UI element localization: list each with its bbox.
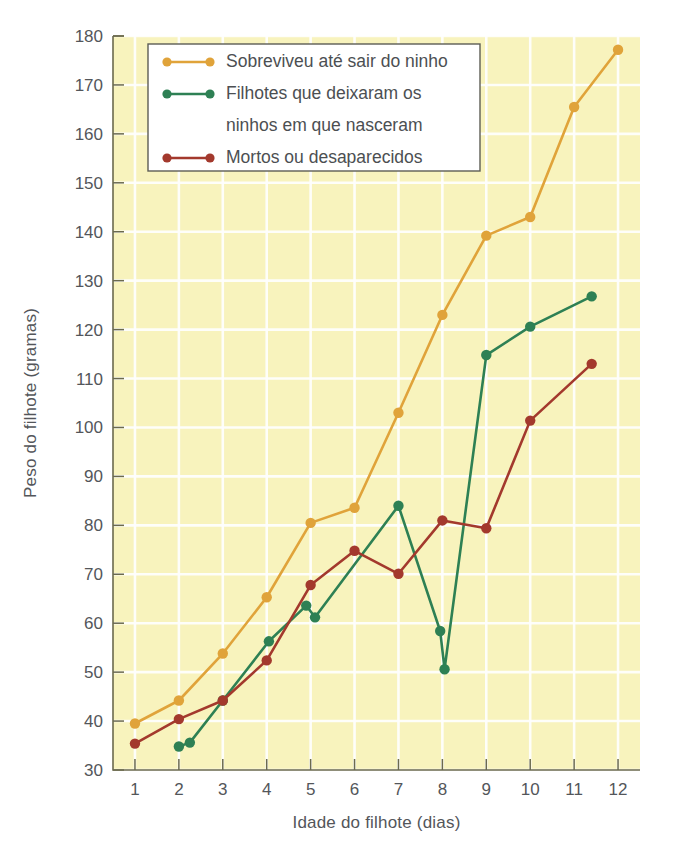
x-tick-label: 7 <box>394 780 403 799</box>
data-point <box>130 738 140 748</box>
x-tick-label: 11 <box>565 780 583 799</box>
x-tick-label: 3 <box>218 780 227 799</box>
legend-label: Mortos ou desaparecidos <box>226 147 423 167</box>
x-tick-label: 2 <box>174 780 183 799</box>
data-point <box>525 321 535 331</box>
legend-label: ninhos em que nasceram <box>226 115 423 135</box>
data-point <box>393 569 403 579</box>
x-tick-label: 1 <box>130 780 139 799</box>
data-point <box>218 695 228 705</box>
x-tick-label: 6 <box>350 780 359 799</box>
y-tick-label: 50 <box>84 663 103 682</box>
data-point <box>437 515 447 525</box>
y-tick-label: 30 <box>84 761 103 780</box>
data-point <box>301 600 311 610</box>
x-tick-label: 10 <box>521 780 540 799</box>
chart-figure: 3040506070809010011012013014015016017018… <box>0 0 677 863</box>
y-tick-label: 110 <box>76 370 103 389</box>
data-point <box>130 718 140 728</box>
data-point <box>525 212 535 222</box>
y-tick-label: 90 <box>84 467 103 486</box>
legend-label: Sobreviveu até sair do ninho <box>226 51 448 71</box>
y-tick-label: 40 <box>84 712 103 731</box>
x-tick-label: 9 <box>482 780 491 799</box>
data-point <box>349 546 359 556</box>
y-tick-label: 160 <box>75 125 103 144</box>
x-tick-label: 12 <box>609 780 628 799</box>
data-point <box>481 230 491 240</box>
data-point <box>218 648 228 658</box>
data-point <box>393 501 403 511</box>
y-tick-label: 60 <box>84 614 103 633</box>
data-point <box>481 523 491 533</box>
data-point <box>174 695 184 705</box>
legend-label: Filhotes que deixaram os <box>226 83 422 103</box>
data-point <box>264 636 274 646</box>
data-point <box>586 359 596 369</box>
x-tick-label: 5 <box>306 780 315 799</box>
data-point <box>310 612 320 622</box>
data-point <box>174 714 184 724</box>
y-axis-title: Peso do filhote (gramas) <box>21 308 40 498</box>
data-point <box>439 664 449 674</box>
line-chart: 3040506070809010011012013014015016017018… <box>0 0 677 863</box>
data-point <box>185 737 195 747</box>
x-tick-label: 8 <box>438 780 447 799</box>
y-tick-label: 100 <box>75 418 103 437</box>
data-point <box>174 741 184 751</box>
y-tick-label: 180 <box>75 27 103 46</box>
data-point <box>525 415 535 425</box>
data-point <box>481 350 491 360</box>
y-tick-label: 140 <box>75 223 103 242</box>
y-tick-label: 80 <box>84 516 103 535</box>
data-point <box>262 655 272 665</box>
y-tick-label: 150 <box>75 174 103 193</box>
y-tick-label: 70 <box>84 565 103 584</box>
x-axis-title: Idade do filhote (dias) <box>292 813 460 832</box>
data-point <box>586 291 596 301</box>
y-tick-label: 120 <box>75 321 103 340</box>
data-point <box>435 626 445 636</box>
data-point <box>349 503 359 513</box>
data-point <box>305 518 315 528</box>
data-point <box>569 102 579 112</box>
data-point <box>393 408 403 418</box>
data-point <box>305 580 315 590</box>
y-tick-label: 130 <box>75 272 103 291</box>
x-tick-label: 4 <box>262 780 271 799</box>
data-point <box>613 45 623 55</box>
y-tick-label: 170 <box>75 76 103 95</box>
legend: Sobreviveu até sair do ninhoFilhotes que… <box>148 44 480 171</box>
data-point <box>437 310 447 320</box>
data-point <box>262 592 272 602</box>
